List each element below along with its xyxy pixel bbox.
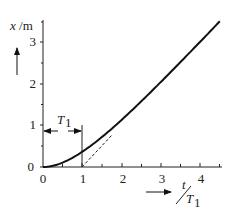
x-tick-label-0: 0 — [40, 171, 47, 186]
position-curve — [43, 21, 220, 167]
y-tick-label-0: 0 — [28, 159, 35, 174]
y-tick-label-2: 2 — [30, 76, 37, 91]
svg-text:1: 1 — [194, 195, 201, 210]
svg-text:1: 1 — [65, 115, 72, 130]
chart: 0 1 2 3 0 1 2 3 4 x /m t T 1 T 1 — [0, 0, 231, 215]
svg-text:T: T — [186, 191, 194, 206]
t1-label: T 1 — [57, 112, 72, 130]
y-tick-label-3: 3 — [30, 34, 37, 49]
svg-text:T: T — [57, 112, 65, 127]
y-tick-label-1: 1 — [30, 117, 37, 132]
x-ticks — [63, 163, 220, 167]
x-tick-label-3: 3 — [159, 171, 166, 186]
x-tick-label-4: 4 — [198, 171, 205, 186]
svg-text:t: t — [182, 177, 186, 192]
x-tick-label-1: 1 — [80, 171, 87, 186]
y-axis-label: x /m — [9, 18, 33, 33]
x-tick-label-2: 2 — [120, 171, 127, 186]
